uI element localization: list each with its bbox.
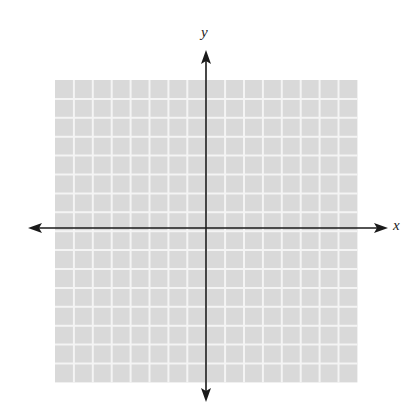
coordinate-plane: x y bbox=[0, 0, 420, 417]
grid-plot bbox=[0, 0, 420, 417]
y-axis-label: y bbox=[201, 24, 208, 41]
x-axis-label: x bbox=[393, 217, 400, 234]
